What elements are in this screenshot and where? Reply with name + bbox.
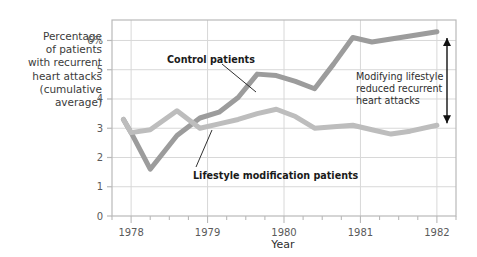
x-tick-label: 1980: [271, 227, 296, 238]
gap-note-line: heart attacks: [356, 95, 420, 106]
x-axis-title: Year: [270, 238, 295, 251]
chart-figure: Percentage of patients with recurrent he…: [0, 0, 477, 257]
x-tick-label: 1979: [195, 227, 220, 238]
x-tick-label: 1982: [424, 227, 449, 238]
series-line: [123, 109, 436, 134]
gap-note-line: reduced recurrent: [356, 83, 443, 94]
gap-arrow-head-bottom: [443, 115, 451, 123]
y-tick-label: 0: [97, 211, 103, 222]
y-tick-label: 6%: [87, 35, 103, 46]
line-chart: 0123456%19781979198019811982 Control pat…: [0, 0, 477, 257]
y-tick-label: 5: [97, 64, 103, 75]
x-tick-label: 1978: [118, 227, 143, 238]
x-tick-label: 1981: [348, 227, 373, 238]
gap-note-line: Modifying lifestyle: [356, 71, 443, 82]
lifestyle-callout-leader: [196, 130, 212, 167]
annotations-layer: Control patientsLifestyle modification p…: [167, 38, 451, 181]
y-tick-label: 2: [97, 152, 103, 163]
control-patients-callout: Control patients: [167, 54, 255, 65]
y-tick-label: 4: [97, 93, 103, 104]
y-tick-label: 1: [97, 181, 103, 192]
y-tick-label: 3: [97, 123, 103, 134]
lifestyle-modification-callout: Lifestyle modification patients: [193, 170, 359, 181]
gap-arrow-head-top: [443, 38, 451, 46]
axis-ticks: 0123456%19781979198019811982: [87, 35, 456, 238]
